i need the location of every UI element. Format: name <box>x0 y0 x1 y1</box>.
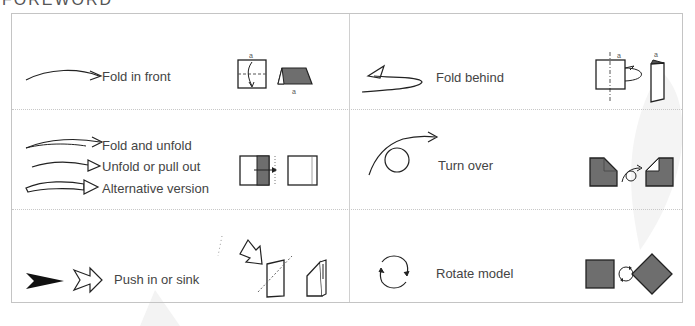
svg-text:a: a <box>249 52 253 59</box>
fold-behind-diagram-icon: a a <box>596 50 686 110</box>
label-fold-in-front: Fold in front <box>102 69 171 84</box>
fold-front-diagram-icon: a a <box>236 48 336 98</box>
label-unfold-pull-out: Unfold or pull out <box>102 159 200 174</box>
rotate-arrows-icon <box>374 252 414 292</box>
svg-text:a: a <box>617 52 621 59</box>
fold-behind-arrow-icon <box>360 54 430 94</box>
fold-and-unfold-arrow-icon <box>24 134 104 154</box>
sink-diagram-icon <box>212 234 332 304</box>
rotate-diagram-icon <box>584 250 694 300</box>
label-fold-behind: Fold behind <box>436 70 504 85</box>
svg-text:a: a <box>654 51 658 58</box>
label-rotate-model: Rotate model <box>436 266 513 281</box>
fold-front-arrow-icon <box>24 64 104 89</box>
label-fold-and-unfold: Fold and unfold <box>102 138 192 153</box>
unfold-pull-out-arrow-icon <box>30 155 105 175</box>
label-turn-over: Turn over <box>438 158 493 173</box>
column-divider <box>349 14 350 302</box>
symbols-table: Fold in front a a Fold behind a a <box>11 13 683 303</box>
label-alternative-version: Alternative version <box>102 181 209 196</box>
svg-text:a: a <box>292 88 296 95</box>
row-divider <box>12 209 682 210</box>
turn-over-arrow-icon <box>367 127 437 177</box>
label-push-in-sink: Push in or sink <box>114 272 199 287</box>
alternative-version-arrow-icon <box>24 176 104 198</box>
fold-unfold-diagram-icon <box>240 152 340 192</box>
turn-over-diagram-icon <box>588 154 688 194</box>
sink-hollow-arrow-icon <box>72 266 107 294</box>
row-divider <box>12 109 682 110</box>
sink-solid-arrow-icon <box>24 272 69 292</box>
page-title: FOREWORD <box>2 0 113 9</box>
